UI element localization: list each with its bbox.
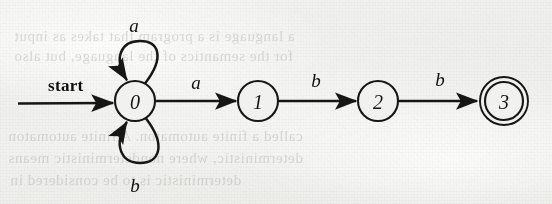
transition-label-b-2-3: b (435, 69, 445, 90)
transition-label-a-0-1: a (191, 72, 201, 93)
state-label-2: 2 (373, 91, 383, 113)
start-label: start (48, 76, 84, 95)
transition-label-b-1-2: b (311, 70, 321, 91)
self-loop-label-a: a (129, 15, 139, 36)
state-label-1: 1 (253, 91, 263, 113)
state-label-0: 0 (130, 91, 140, 113)
state-node-0[interactable]: 0 (115, 81, 155, 121)
self-loop-bottom-state-0 (120, 119, 159, 164)
state-node-2[interactable]: 2 (358, 81, 398, 121)
state-node-1[interactable]: 1 (238, 81, 278, 121)
start-arrow (18, 103, 113, 104)
automaton-figure: a language is a program that takes as in… (0, 0, 552, 204)
self-loop-label-b: b (130, 175, 140, 196)
state-label-3: 3 (498, 91, 509, 113)
automaton-canvas: start a b b a b (0, 0, 552, 204)
self-loop-top-state-0 (120, 41, 158, 84)
state-node-3[interactable]: 3 (480, 77, 528, 125)
